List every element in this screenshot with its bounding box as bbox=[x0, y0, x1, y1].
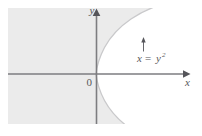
curve-label-variable: x bbox=[136, 52, 142, 64]
parabola-region-figure: y x 0 x = y 2 bbox=[0, 0, 202, 136]
x-axis-label: x bbox=[184, 76, 190, 88]
curve-label-equals: = bbox=[145, 52, 151, 64]
origin-label: 0 bbox=[87, 76, 93, 88]
curve-label-exponent: 2 bbox=[162, 51, 166, 59]
curve-label-base: y bbox=[155, 52, 161, 64]
figure-canvas: y x 0 x = y 2 bbox=[0, 0, 202, 136]
y-axis-label: y bbox=[89, 4, 95, 16]
